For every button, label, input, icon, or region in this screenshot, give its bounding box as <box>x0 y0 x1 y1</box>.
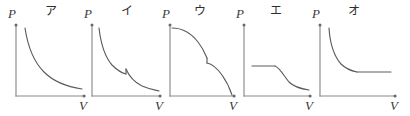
panel-label-b: イ <box>121 5 133 17</box>
panel-c-y-axis-arrowhead <box>169 24 172 27</box>
panel-b-y-axis-arrowhead <box>91 24 94 27</box>
panel-b-y-axis-label: P <box>84 7 92 20</box>
panel-b-curve-segment-1 <box>99 28 126 74</box>
panel-e-y-axis-label: P <box>312 7 320 20</box>
panel-e-x-axis-label: V <box>390 99 398 112</box>
panel-label-d: エ <box>270 5 282 17</box>
panel-label-e: オ <box>348 5 360 17</box>
panel-a-y-axis-label: P <box>8 7 16 20</box>
panel-e-y-axis-arrowhead <box>319 24 322 27</box>
panel-c-curve-segment-1 <box>172 28 207 58</box>
pv-graph-figure: P V ア P V イ P V ウ <box>0 0 410 116</box>
panel-label-c: ウ <box>194 5 206 17</box>
panel-a-curve <box>25 28 82 89</box>
panel-d-y-axis-label: P <box>236 7 244 20</box>
panel-c-y-axis-label: P <box>162 7 170 20</box>
panel-a-y-axis-arrowhead <box>15 24 18 27</box>
panel-d-y-axis-arrowhead <box>243 24 246 27</box>
panel-e: P V オ <box>304 0 410 116</box>
panel-e-curve-decay <box>329 28 357 72</box>
panel-label-a: ア <box>45 5 57 17</box>
